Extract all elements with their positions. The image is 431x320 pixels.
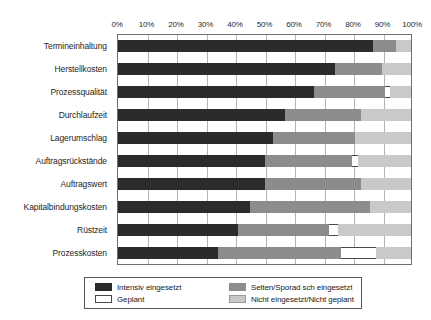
stacked-bar[interactable]	[118, 86, 411, 98]
bar-segment[interactable]	[118, 201, 250, 213]
bar-segment[interactable]	[118, 132, 273, 144]
bar-row	[118, 218, 411, 241]
legend-item[interactable]: Geplant	[89, 293, 223, 305]
bar-segment[interactable]	[250, 201, 370, 213]
x-axis-tick-label: 40%	[227, 20, 242, 30]
stacked-bar[interactable]	[118, 132, 411, 144]
x-axis-tick-label: 50%	[257, 20, 272, 30]
bar-row	[118, 172, 411, 195]
category-label-cell: Kapitalbindungskosten	[0, 196, 112, 219]
category-label-cell: Rüstzeit	[0, 219, 112, 242]
bar-segment[interactable]	[341, 247, 376, 259]
x-axis-tick-label: 60%	[286, 20, 301, 30]
stacked-bar[interactable]	[118, 63, 411, 75]
bar-segment[interactable]	[118, 155, 265, 167]
bar-segment[interactable]	[314, 86, 384, 98]
bar-row	[118, 127, 411, 150]
bar-segment[interactable]	[358, 155, 411, 167]
category-label: Auftragswert	[60, 179, 112, 189]
stacked-bar[interactable]	[118, 201, 411, 213]
legend-label: Nicht eingesetzt/Nicht geplant	[251, 295, 354, 304]
bar-row	[118, 150, 411, 173]
x-axis-tick-label: 70%	[316, 20, 331, 30]
bar-rows	[118, 35, 411, 264]
category-label-cell: Herstellkosten	[0, 57, 112, 80]
stacked-bar[interactable]	[118, 109, 411, 121]
category-label: Kapitalbindungskosten	[24, 202, 112, 212]
bar-segment[interactable]	[118, 247, 218, 259]
swatch-dark-icon	[95, 283, 112, 291]
stacked-bar[interactable]	[118, 40, 411, 52]
legend-label: Selten/Sporad sch eingesetzt	[251, 283, 352, 292]
x-axis-tick-label: 90%	[375, 20, 390, 30]
bar-segment[interactable]	[396, 40, 411, 52]
x-axis-tick-label: 30%	[198, 20, 213, 30]
legend-label: Geplant	[117, 295, 144, 304]
bar-row	[118, 58, 411, 81]
bar-segment[interactable]	[265, 155, 353, 167]
bar-segment[interactable]	[238, 224, 329, 236]
stacked-bar[interactable]	[118, 247, 411, 259]
chart-legend: Intensiv eingesetztSelten/Sporad sch ein…	[84, 277, 362, 309]
swatch-medium-gray-icon	[229, 283, 246, 291]
category-label: Prozesskosten	[53, 248, 112, 258]
category-label-cell: Prozessqualität	[0, 80, 112, 103]
bar-segment[interactable]	[376, 247, 411, 259]
bar-segment[interactable]	[390, 86, 411, 98]
bar-segment[interactable]	[118, 178, 265, 190]
category-label: Herstellkosten	[55, 64, 112, 74]
bar-segment[interactable]	[335, 63, 382, 75]
category-label: Auftragsrückstände	[36, 156, 112, 166]
x-axis-tick-labels: 0%10%20%30%40%50%60%70%80%90%100%	[117, 20, 412, 32]
x-axis-tick-label: 100%	[402, 20, 422, 30]
legend-item[interactable]: Intensiv eingesetzt	[89, 281, 223, 293]
category-label: Prozessqualität	[50, 87, 112, 97]
bar-segment[interactable]	[329, 224, 338, 236]
category-label-cell: Auftragsrückstände	[0, 149, 112, 172]
bar-segment[interactable]	[218, 247, 341, 259]
category-label-cell: Lagerumschlag	[0, 126, 112, 149]
legend-label: Intensiv eingesetzt	[117, 283, 181, 292]
x-axis-tick-label: 80%	[345, 20, 360, 30]
x-axis-tick-label: 0%	[111, 20, 122, 30]
swatch-light-gray-icon	[229, 295, 246, 303]
category-label-cell: Durchlaufzeit	[0, 103, 112, 126]
category-label-cell: Auftragswert	[0, 173, 112, 196]
bar-segment[interactable]	[338, 224, 411, 236]
x-axis-tick-label: 20%	[168, 20, 183, 30]
bar-row	[118, 35, 411, 58]
bar-segment[interactable]	[285, 109, 361, 121]
x-axis-tick-label: 10%	[139, 20, 154, 30]
bar-segment[interactable]	[118, 63, 335, 75]
bar-segment[interactable]	[361, 109, 411, 121]
bar-segment[interactable]	[118, 86, 314, 98]
bar-row	[118, 195, 411, 218]
bar-segment[interactable]	[382, 63, 411, 75]
bar-segment[interactable]	[118, 224, 238, 236]
stacked-bar[interactable]	[118, 178, 411, 190]
legend-item[interactable]: Nicht eingesetzt/Nicht geplant	[223, 293, 357, 305]
bar-segment[interactable]	[118, 109, 285, 121]
category-label: Rüstzeit	[77, 225, 112, 235]
bar-segment[interactable]	[118, 40, 373, 52]
bar-segment[interactable]	[373, 40, 396, 52]
legend-item[interactable]: Selten/Sporad sch eingesetzt	[223, 281, 357, 293]
plot-area	[117, 34, 412, 265]
category-label: Lagerumschlag	[50, 133, 112, 143]
bar-row	[118, 241, 411, 264]
bar-segment[interactable]	[273, 132, 355, 144]
bar-segment[interactable]	[265, 178, 362, 190]
category-label: Termineinhaltung	[44, 41, 112, 51]
category-label: Durchlaufzeit	[59, 110, 112, 120]
category-label-cell: Prozesskosten	[0, 242, 112, 265]
bar-row	[118, 104, 411, 127]
swatch-white-icon	[95, 295, 112, 303]
category-axis-labels: TermineinhaltungHerstellkostenProzessqua…	[0, 34, 112, 265]
bar-segment[interactable]	[361, 178, 411, 190]
stacked-bar[interactable]	[118, 155, 411, 167]
category-label-cell: Termineinhaltung	[0, 34, 112, 57]
bar-segment[interactable]	[355, 132, 411, 144]
stacked-bar-chart: 0%10%20%30%40%50%60%70%80%90%100% Termin…	[0, 0, 431, 320]
bar-segment[interactable]	[370, 201, 411, 213]
stacked-bar[interactable]	[118, 224, 411, 236]
